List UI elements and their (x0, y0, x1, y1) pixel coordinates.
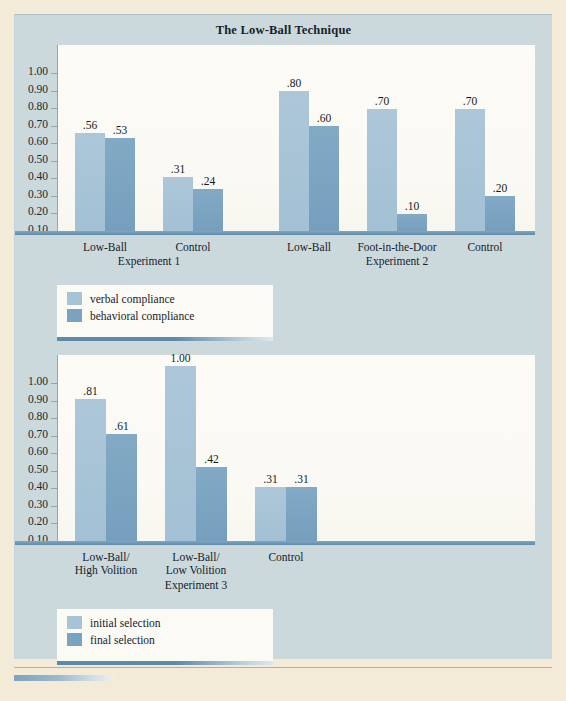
legend-swatch-icon (67, 633, 82, 646)
legend-swatch-icon (67, 309, 82, 322)
y-tick-2-3: 0.70 (15, 436, 57, 437)
y-tick-2-4: 0.60 (15, 453, 57, 454)
y-tick-1-1: 0.90 (15, 91, 57, 92)
bar-exp2-control-verbal: .70 (455, 109, 485, 231)
group-label-line1: Low-Ball/ (166, 551, 227, 564)
group-label-exp3-lowvolition: Low-Ball/ Low Volition (166, 551, 227, 577)
bar-value: .53 (113, 124, 127, 136)
bar-value: .80 (287, 77, 301, 89)
bar-exp3-lowvolition-final: .42 (196, 467, 227, 541)
y-axis-line-1 (57, 45, 58, 231)
bar-value: .81 (83, 385, 97, 397)
bar-exp2-lowball-verbal: .80 (279, 91, 309, 231)
plot-area-chart-1: 1.00 0.90 0.80 0.70 0.60 0.50 0.40 0.30 (57, 45, 535, 231)
group-label-line2: Low Volition (166, 564, 227, 577)
y-tick-2-6: 0.40 (15, 488, 57, 489)
bar-exp3-control-initial: .31 (255, 487, 286, 541)
experiment-label-3: Experiment 3 (165, 579, 227, 591)
legend-swatch-icon (67, 292, 82, 305)
group-label-exp1-lowball: Low-Ball (83, 241, 127, 254)
bar-value: .31 (294, 473, 308, 485)
legend-chart-1: verbal compliance behavioral compliance (57, 285, 273, 341)
group-label-line2: High Volition (75, 564, 138, 577)
group-label-exp2-lowball: Low-Ball (287, 241, 331, 254)
bar-value: .70 (463, 95, 477, 107)
x-axis-line-1 (15, 231, 535, 235)
y-axis-line-2 (57, 355, 58, 541)
legend-label: final selection (90, 634, 155, 646)
y-tick-1-7: 0.30 (15, 196, 57, 197)
bottom-accent-bar (14, 675, 114, 681)
legend-label: behavioral compliance (90, 310, 194, 322)
group-label-exp3-control: Control (268, 551, 303, 564)
bar-exp2-footinthedoor-verbal: .70 (367, 109, 397, 231)
plot-area-chart-2: 1.00 0.90 0.80 0.70 0.60 0.50 0.40 0.30 (57, 355, 535, 541)
y-tick-1-3: 0.70 (15, 126, 57, 127)
legend-item-verbal-compliance: verbal compliance (67, 292, 273, 305)
legend-rule-2 (57, 661, 273, 665)
bar-value: .61 (114, 420, 128, 432)
bar-value: .60 (317, 112, 331, 124)
legend-item-behavioral-compliance: behavioral compliance (67, 309, 273, 322)
bar-exp1-control-verbal: .31 (163, 177, 193, 231)
bar-value: .24 (201, 175, 215, 187)
y-tick-2-1: 0.90 (15, 401, 57, 402)
figure-panel: The Low-Ball Technique 1.00 0.90 0.80 0.… (14, 14, 552, 659)
bar-exp3-lowvolition-initial: 1.00 (165, 366, 196, 541)
y-tick-1-8: 0.20 (15, 213, 57, 214)
bar-exp2-footinthedoor-behavioral: .10 (397, 214, 427, 231)
y-tick-2-8: 0.20 (15, 523, 57, 524)
bar-value: .56 (83, 119, 97, 131)
legend-swatch-icon (67, 616, 82, 629)
y-tick-2-0: 1.00 (15, 383, 57, 384)
bar-exp3-highvolition-final: .61 (106, 434, 137, 541)
y-tick-2-7: 0.30 (15, 506, 57, 507)
x-axis-line-2 (15, 541, 535, 545)
bar-exp3-control-final: .31 (286, 487, 317, 541)
legend-item-initial-selection: initial selection (67, 616, 273, 629)
legend-chart-2: initial selection final selection (57, 609, 273, 665)
bar-exp1-lowball-verbal: .56 (75, 133, 105, 231)
y-tick-2-2: 0.80 (15, 418, 57, 419)
bar-value: .31 (171, 163, 185, 175)
bar-exp1-control-behavioral: .24 (193, 189, 223, 231)
experiment-label-2: Experiment 2 (366, 255, 428, 267)
group-label-exp2-footinthedoor: Foot-in-the-Door (357, 241, 436, 254)
legend-label: initial selection (90, 617, 161, 629)
bar-exp3-highvolition-initial: .81 (75, 399, 106, 541)
y-tick-1-6: 0.40 (15, 178, 57, 179)
group-label-line1: Low-Ball/ (75, 551, 138, 564)
bar-value: .31 (263, 473, 277, 485)
y-tick-1-0: 1.00 (15, 73, 57, 74)
group-label-exp1-control: Control (175, 241, 210, 254)
bottom-divider (14, 667, 552, 668)
figure-title: The Low-Ball Technique (15, 23, 552, 38)
group-label-exp2-control: Control (467, 241, 502, 254)
bar-value: .10 (405, 200, 419, 212)
experiment-label-1: Experiment 1 (118, 255, 180, 267)
legend-item-final-selection: final selection (67, 633, 273, 646)
y-tick-2-5: 0.50 (15, 471, 57, 472)
bar-value: .20 (493, 182, 507, 194)
bar-exp1-lowball-behavioral: .53 (105, 138, 135, 231)
bar-value: .70 (375, 95, 389, 107)
bar-value: .42 (204, 453, 218, 465)
group-label-exp3-highvolition: Low-Ball/ High Volition (75, 551, 138, 577)
group-label-line1: Control (268, 551, 303, 564)
bar-exp2-lowball-behavioral: .60 (309, 126, 339, 231)
y-tick-1-4: 0.60 (15, 143, 57, 144)
bar-exp2-control-behavioral: .20 (485, 196, 515, 231)
bar-value: 1.00 (170, 352, 190, 364)
legend-rule-1 (57, 337, 273, 341)
legend-label: verbal compliance (90, 293, 175, 305)
y-tick-1-5: 0.50 (15, 161, 57, 162)
y-tick-1-2: 0.80 (15, 108, 57, 109)
